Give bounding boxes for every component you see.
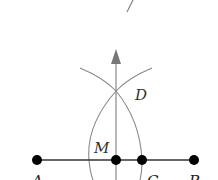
tick-mark	[127, 0, 133, 12]
construction-arc-right-lower	[116, 91, 142, 180]
label-m: M	[93, 139, 110, 157]
point-m	[111, 155, 121, 165]
arrowhead-icon	[111, 49, 121, 64]
label-c: C	[147, 172, 159, 180]
point-b	[189, 155, 199, 165]
label-a: A	[30, 172, 43, 180]
point-a	[32, 155, 42, 165]
geometry-diagram: D M A C B	[0, 0, 218, 180]
label-d: D	[134, 86, 147, 104]
label-b: B	[188, 172, 200, 180]
construction-arc-left-lower	[89, 91, 116, 180]
construction-arc-left-upper	[80, 68, 116, 91]
point-c	[137, 155, 147, 165]
